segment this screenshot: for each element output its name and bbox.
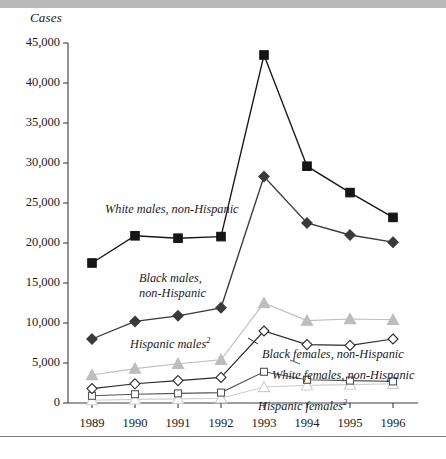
data-point-filled-diamond [173, 311, 183, 321]
series-annotation: Black males, [139, 272, 202, 285]
marker-square [174, 234, 183, 243]
series-annotation: non-Hispanic [139, 287, 206, 300]
marker-square [217, 232, 226, 241]
y-tick-label: 45,000 [0, 36, 60, 48]
marker-square [175, 390, 182, 397]
y-tick-label: 40,000 [0, 76, 60, 88]
marker-square [132, 391, 139, 398]
figure-root: Cases 05,00010,00015,00020,00025,00030,0… [0, 0, 446, 459]
data-point-open-square [132, 391, 139, 398]
data-point-open-square [175, 390, 182, 397]
x-tick-label: 1996 [368, 416, 418, 431]
data-point-filled-triangle [215, 354, 226, 364]
data-point-filled-triangle [258, 297, 269, 307]
series-annotation: Hispanic males2 [130, 334, 210, 351]
marker-diamond [130, 316, 140, 326]
y-tick-label: 0 [0, 396, 60, 408]
data-point-filled-square [346, 188, 355, 197]
data-point-filled-square [131, 232, 140, 241]
annotation-footnote-marker: 2 [206, 336, 210, 345]
series-annotation: White males, non-Hispanic [105, 203, 239, 216]
data-point-filled-square [217, 232, 226, 241]
data-point-open-square [218, 389, 225, 396]
marker-diamond [173, 311, 183, 321]
y-tick-label: 25,000 [0, 196, 60, 208]
marker-square [346, 188, 355, 197]
data-point-filled-square [174, 234, 183, 243]
marker-square [131, 232, 140, 241]
marker-diamond [388, 334, 398, 344]
y-tick-label: 10,000 [0, 316, 60, 328]
data-point-filled-square [303, 162, 312, 171]
marker-square [260, 51, 269, 60]
series-annotation: Hispanic females2 [258, 396, 347, 413]
marker-diamond [130, 379, 140, 389]
data-point-filled-square [260, 51, 269, 60]
data-point-filled-square [88, 259, 97, 268]
data-point-filled-diamond [87, 334, 97, 344]
marker-diamond [388, 237, 398, 247]
data-point-filled-diamond [345, 230, 355, 240]
marker-diamond [87, 334, 97, 344]
marker-square [303, 162, 312, 171]
y-tick-label: 35,000 [0, 116, 60, 128]
marker-square [389, 213, 398, 222]
data-point-open-diamond [173, 376, 183, 386]
y-tick-label: 20,000 [0, 236, 60, 248]
marker-square [218, 389, 225, 396]
marker-square [88, 259, 97, 268]
marker-triangle [215, 354, 226, 364]
series-annotation: Black females, non-Hispanic [262, 348, 404, 361]
y-tick-label: 5,000 [0, 356, 60, 368]
data-point-filled-diamond [130, 316, 140, 326]
data-point-filled-diamond [216, 303, 226, 313]
marker-diamond [216, 303, 226, 313]
data-point-open-diamond [130, 379, 140, 389]
marker-triangle [258, 297, 269, 307]
series-annotation: White females, non-Hispanic [272, 369, 414, 382]
marker-triangle [344, 313, 355, 323]
data-point-filled-diamond [388, 237, 398, 247]
y-tick-label: 30,000 [0, 156, 60, 168]
data-point-open-square [261, 368, 268, 375]
series-line [92, 177, 393, 339]
data-point-open-diamond [388, 334, 398, 344]
annotation-footnote-marker: 2 [343, 398, 347, 407]
data-point-filled-triangle [344, 313, 355, 323]
y-tick-label: 15,000 [0, 276, 60, 288]
data-point-filled-square [389, 213, 398, 222]
marker-square [261, 368, 268, 375]
marker-diamond [345, 230, 355, 240]
chart-canvas [0, 0, 446, 459]
marker-diamond [173, 376, 183, 386]
